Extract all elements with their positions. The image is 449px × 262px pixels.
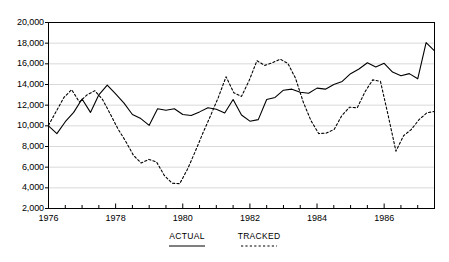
y-axis-tick-label: 10,000 (0, 121, 44, 130)
x-axis-tick-label: 1976 (29, 214, 69, 223)
legend-swatch-actual-solid (168, 243, 206, 249)
legend-label-tracked: TRACKED (238, 231, 281, 241)
series-line-tracked (49, 59, 435, 184)
y-axis-tick-label: 18,000 (0, 39, 44, 48)
axis-ticks-group (45, 23, 435, 209)
y-axis-tick-label: 12,000 (0, 101, 44, 110)
y-axis-tick-label: 8,000 (0, 142, 44, 151)
chart-container: 20,00018,00016,00014,00012,00010,0008,00… (0, 0, 449, 262)
y-axis-tick-label: 20,000 (0, 18, 44, 27)
legend-label-actual: ACTUAL (169, 231, 204, 241)
x-axis-tick-label: 1980 (163, 214, 203, 223)
y-axis-tick-label: 14,000 (0, 80, 44, 89)
legend-item-tracked: TRACKED (224, 231, 294, 249)
x-axis-tick-label: 1982 (230, 214, 270, 223)
legend-item-actual: ACTUAL (152, 231, 222, 249)
legend-swatch-tracked-dashed (240, 243, 278, 249)
x-axis-tick-label: 1984 (297, 214, 337, 223)
x-axis-tick-label: 1986 (364, 214, 404, 223)
y-axis-tick-label: 4,000 (0, 183, 44, 192)
y-axis-tick-label: 6,000 (0, 163, 44, 172)
chart-plot-svg (0, 0, 449, 262)
x-axis-tick-label: 1978 (96, 214, 136, 223)
y-axis-tick-label: 16,000 (0, 59, 44, 68)
series-line-actual (49, 43, 435, 134)
y-axis-tick-label: 2,000 (0, 204, 44, 213)
